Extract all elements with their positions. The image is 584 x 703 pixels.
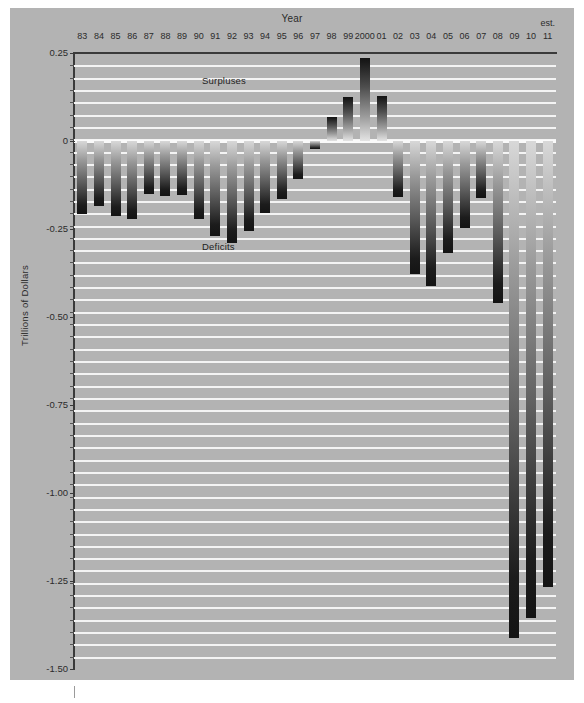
y-tick-label: -0.75 <box>22 399 68 410</box>
gridline <box>74 102 556 104</box>
gridline <box>74 312 556 314</box>
gridline <box>74 521 556 523</box>
bar <box>509 141 519 638</box>
y-minor-tick-mark <box>70 324 74 325</box>
y-minor-tick-mark <box>70 238 74 239</box>
x-tick-label: 11 <box>534 31 562 41</box>
gridline <box>74 349 556 351</box>
y-minor-tick-mark <box>70 435 74 436</box>
y-tick-label: 0 <box>22 135 68 146</box>
gridline <box>74 644 556 646</box>
bar <box>343 97 353 141</box>
annotation-surpluses: Surpluses <box>202 75 246 86</box>
gridline <box>74 78 556 80</box>
bar <box>177 141 187 195</box>
bar <box>77 141 87 214</box>
y-minor-tick-mark <box>70 164 74 165</box>
y-minor-tick-mark <box>70 102 74 103</box>
y-tick-mark <box>70 669 75 670</box>
y-minor-tick-mark <box>70 299 74 300</box>
gridline <box>74 398 556 400</box>
y-minor-tick-mark <box>70 521 74 522</box>
y-minor-tick-mark <box>70 583 74 584</box>
gridline <box>74 373 556 375</box>
gridline <box>74 410 556 412</box>
gridline <box>74 460 556 462</box>
y-minor-tick-mark <box>70 447 74 448</box>
gridline <box>74 546 556 548</box>
gridline <box>74 336 556 338</box>
gridline <box>74 472 556 474</box>
bar <box>94 141 104 206</box>
y-minor-tick-mark <box>70 176 74 177</box>
y-tick-label: 0.25 <box>22 47 68 58</box>
gridline <box>74 213 556 215</box>
y-tick-mark <box>70 141 75 142</box>
gridline <box>74 250 556 252</box>
bar <box>210 141 220 236</box>
y-minor-tick-mark <box>70 373 74 374</box>
x-axis-title: Year <box>0 13 584 24</box>
gridline <box>74 299 556 301</box>
bar <box>393 141 403 197</box>
y-tick-label: -1.50 <box>22 663 68 674</box>
y-minor-tick-mark <box>70 484 74 485</box>
y-minor-tick-mark <box>70 250 74 251</box>
gridline <box>74 570 556 572</box>
y-minor-tick-mark <box>70 127 74 128</box>
y-minor-tick-mark <box>70 152 74 153</box>
y-minor-tick-mark <box>70 607 74 608</box>
bar <box>443 141 453 253</box>
bar <box>111 141 121 216</box>
plot-area: SurplusesDeficits <box>74 53 556 668</box>
bar <box>310 141 320 149</box>
gridline <box>74 595 556 597</box>
y-minor-tick-mark <box>70 534 74 535</box>
y-minor-tick-mark <box>70 213 74 214</box>
y-minor-tick-mark <box>70 595 74 596</box>
bar <box>144 141 154 194</box>
gridline <box>74 287 556 289</box>
bar <box>543 141 553 587</box>
y-minor-tick-mark <box>70 570 74 571</box>
bar <box>227 141 237 243</box>
bar <box>493 141 503 303</box>
gridline <box>74 620 556 622</box>
y-minor-tick-mark <box>70 398 74 399</box>
gridline <box>74 127 556 129</box>
y-minor-tick-mark <box>70 189 74 190</box>
gridline <box>74 534 556 536</box>
gridline <box>74 497 556 499</box>
bar <box>160 141 170 196</box>
y-minor-tick-mark <box>70 423 74 424</box>
y-tick-label: -1.00 <box>22 487 68 498</box>
y-minor-tick-mark <box>70 312 74 313</box>
gridline <box>74 583 556 585</box>
gridline <box>74 324 556 326</box>
y-tick-label: -0.25 <box>22 223 68 234</box>
y-axis-title: Trillions of Dollars <box>19 236 30 376</box>
bar <box>377 96 387 141</box>
y-minor-tick-mark <box>70 226 74 227</box>
y-minor-tick-mark <box>70 287 74 288</box>
estimate-label: est. <box>537 18 559 28</box>
gridline <box>74 657 556 659</box>
y-minor-tick-mark <box>70 115 74 116</box>
y-minor-tick-mark <box>70 644 74 645</box>
gridline <box>74 65 556 67</box>
gridline <box>74 423 556 425</box>
y-minor-tick-mark <box>70 262 74 263</box>
gridline <box>74 558 556 560</box>
y-minor-tick-mark <box>70 657 74 658</box>
y-minor-tick-mark <box>70 139 74 140</box>
y-tick-label: -1.25 <box>22 575 68 586</box>
y-tick-mark <box>70 405 75 406</box>
bar <box>476 141 486 198</box>
bar <box>127 141 137 219</box>
y-minor-tick-mark <box>70 386 74 387</box>
gridline <box>74 484 556 486</box>
y-tick-mark <box>70 317 75 318</box>
y-minor-tick-mark <box>70 201 74 202</box>
y-tick-mark <box>70 493 75 494</box>
bar <box>194 141 204 219</box>
